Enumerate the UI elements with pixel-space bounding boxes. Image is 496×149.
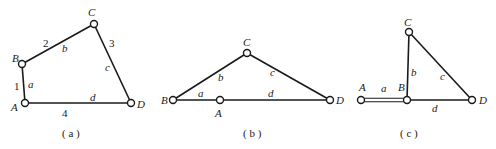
joint-a [358, 97, 365, 104]
link-label-b: b [218, 71, 224, 83]
link-label-c: c [270, 66, 275, 78]
joint-label-b: B [12, 52, 19, 64]
joint-label-a: A [214, 107, 222, 119]
link-label-b: b [62, 42, 68, 54]
link-b [22, 24, 94, 64]
link-b [407, 32, 409, 100]
joint-a [217, 97, 224, 104]
link-b [173, 53, 247, 100]
link-number-3: 3 [109, 37, 115, 49]
joint-d [128, 100, 135, 107]
joint-c [244, 50, 251, 57]
joint-label-a: A [10, 101, 18, 113]
joint-b [19, 61, 26, 68]
link-label-b: b [411, 66, 417, 78]
joint-a [22, 100, 29, 107]
panel-b: B A C D a b c d ( b ) [161, 36, 344, 140]
panel-a: A B C D 1 a 2 b 3 c d 4 ( a ) [10, 6, 145, 140]
link-label-a: a [28, 78, 34, 90]
joint-b [170, 97, 177, 104]
joint-d [469, 97, 476, 104]
joint-label-c: C [404, 16, 412, 28]
link-label-d: d [268, 87, 274, 99]
link-number-4: 4 [62, 107, 68, 119]
joint-label-b: B [398, 81, 405, 93]
link-number-2: 2 [43, 37, 49, 49]
joint-label-a: A [358, 81, 366, 93]
joint-label-c: C [243, 36, 251, 48]
link-label-c: c [105, 61, 110, 73]
link-label-d: d [90, 91, 96, 103]
link-c [94, 24, 131, 103]
link-label-c: c [440, 70, 445, 82]
joint-d [327, 97, 334, 104]
joint-label-c: C [88, 6, 96, 18]
link-c [409, 32, 472, 100]
caption-c: ( c ) [400, 127, 418, 140]
link-a [22, 64, 25, 103]
joint-label-d: D [478, 94, 487, 106]
caption-a: ( a ) [62, 127, 80, 140]
link-c [247, 53, 330, 100]
link-number-1: 1 [14, 80, 20, 92]
panel-c: A B C D a b c d ( c ) [358, 16, 488, 140]
joint-c [91, 21, 98, 28]
link-label-a: a [381, 82, 387, 94]
link-label-d: d [432, 102, 438, 114]
joint-label-d: D [136, 98, 145, 110]
joint-label-b: B [161, 94, 168, 106]
caption-b: ( b ) [243, 127, 262, 140]
joint-label-d: D [335, 94, 344, 106]
joint-b [404, 97, 411, 104]
joint-c [406, 29, 413, 36]
four-bar-linkage-diagram: A B C D 1 a 2 b 3 c d 4 ( a ) B A C D a … [0, 0, 496, 149]
link-label-a: a [198, 87, 204, 99]
